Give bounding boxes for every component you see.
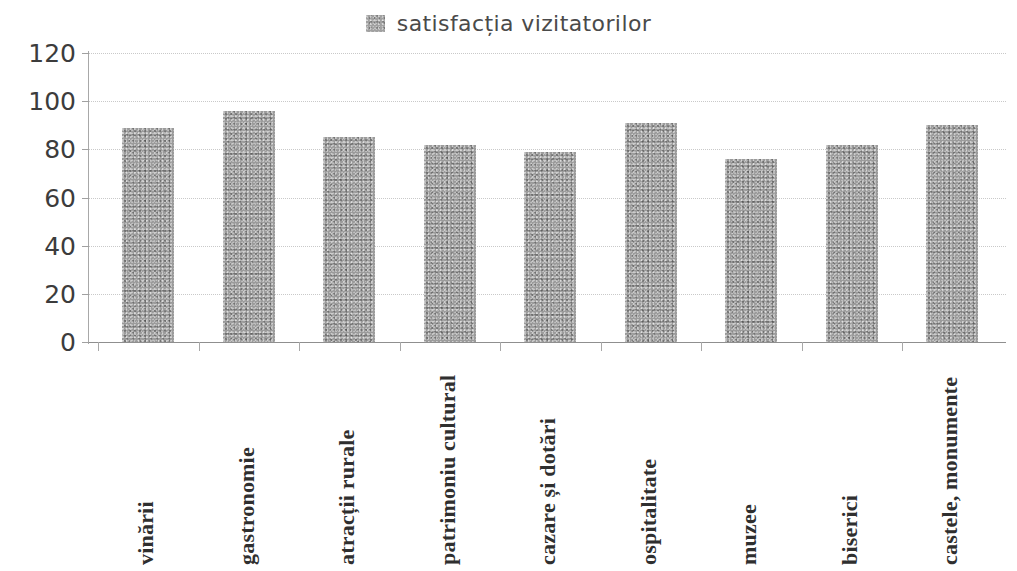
x-tick (902, 342, 903, 351)
y-axis-label: 100 (2, 89, 76, 114)
x-tick (199, 342, 200, 351)
x-tick (299, 342, 300, 351)
x-tick (701, 342, 702, 351)
y-tick-120 (82, 53, 89, 54)
bar (625, 123, 677, 342)
bar-chart: satisfacția vizitatorilor 12010080604020… (0, 0, 1017, 571)
x-axis-label: cazare și dotări (535, 418, 561, 565)
x-axis-label: atracții rurale (334, 429, 360, 565)
x-axis-label: gastronomie (234, 447, 260, 565)
x-tick (98, 342, 99, 351)
y-axis-label: 120 (2, 41, 76, 66)
gridline-0 (88, 342, 1006, 343)
bar (424, 145, 476, 342)
x-axis-label: muzee (736, 504, 762, 565)
y-tick-100 (82, 101, 89, 102)
x-tick (601, 342, 602, 351)
plot-area (88, 53, 1006, 342)
x-tick (400, 342, 401, 351)
x-tick (500, 342, 501, 351)
bar (223, 111, 275, 342)
x-axis-label: ospitalitate (636, 459, 662, 565)
bar (926, 125, 978, 342)
y-tick-20 (82, 294, 89, 295)
x-axis-label: biserici (837, 495, 863, 565)
x-axis-label: patrimoniu cultural (435, 375, 461, 565)
plot-wrapper: 120100806040200 vinăriigastronomieatracț… (0, 0, 1017, 571)
y-axis-label: 20 (2, 281, 76, 306)
bar (826, 145, 878, 342)
y-tick-40 (82, 246, 89, 247)
gridline-100 (88, 101, 1006, 102)
y-axis-label: 60 (2, 185, 76, 210)
x-tick (802, 342, 803, 351)
x-axis-label: vinării (133, 501, 159, 565)
x-axis-label: castele, monumente (937, 377, 963, 565)
y-tick-80 (82, 149, 89, 150)
bar (122, 128, 174, 342)
bar (323, 137, 375, 342)
bar (524, 152, 576, 342)
bar (725, 159, 777, 342)
y-tick-60 (82, 198, 89, 199)
y-axis-label: 40 (2, 233, 76, 258)
gridline-120 (88, 53, 1006, 54)
y-tick-0 (82, 342, 89, 343)
y-axis-label: 80 (2, 137, 76, 162)
y-axis-label: 0 (2, 330, 76, 355)
